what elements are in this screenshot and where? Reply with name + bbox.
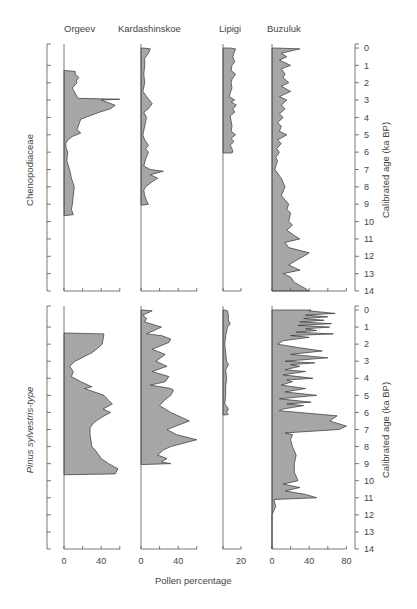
x-tick-label-orgeev: 40 bbox=[96, 556, 106, 566]
panel-label-chenopodiaceae: Chenopodiaceae bbox=[24, 134, 35, 206]
age-tick-label: 5 bbox=[364, 391, 369, 401]
age-tick-label: 2 bbox=[364, 339, 369, 349]
age-tick-label: 12 bbox=[364, 510, 374, 520]
age-tick-label: 8 bbox=[364, 182, 369, 192]
site-label-orgeev: Orgeev bbox=[64, 23, 95, 34]
panel-label-pinus: Pinus sylvestris-type bbox=[24, 387, 35, 474]
site-label-lipigi: Lipigi bbox=[219, 23, 241, 34]
age-tick-label: 4 bbox=[364, 373, 369, 383]
age-tick-label: 2 bbox=[364, 78, 369, 88]
age-tick-label: 12 bbox=[364, 251, 374, 261]
site-label-buzuluk: Buzuluk bbox=[267, 23, 301, 34]
age-tick-label: 9 bbox=[364, 199, 369, 209]
age-tick-label: 1 bbox=[364, 322, 369, 332]
age-tick-label: 3 bbox=[364, 356, 369, 366]
age-tick-label: 3 bbox=[364, 95, 369, 105]
x-tick-label-buzuluk: 80 bbox=[341, 556, 351, 566]
x-tick-label-kardashinskoe: 40 bbox=[173, 556, 183, 566]
age-tick-label: 5 bbox=[364, 130, 369, 140]
age-tick-label: 13 bbox=[364, 527, 374, 537]
age-tick-label: 6 bbox=[364, 408, 369, 418]
age-tick-label: 13 bbox=[364, 269, 374, 279]
age-tick-label: 1 bbox=[364, 61, 369, 71]
tick-labels: 0123456789101112131401234567891011121314… bbox=[61, 43, 374, 566]
chart-graphics bbox=[47, 44, 359, 549]
pollen-curve-orgeev bbox=[64, 71, 120, 216]
pollen-curve-lipigi bbox=[223, 48, 237, 153]
x-axis-label: Pollen percentage bbox=[155, 575, 232, 586]
age-tick-label: 10 bbox=[364, 217, 374, 227]
age-tick-label: 9 bbox=[364, 459, 369, 469]
age-tick-label: 14 bbox=[364, 286, 374, 296]
pollen-diagram: Orgeev Kardashinskoe Lipigi Buzuluk Chen… bbox=[0, 0, 417, 609]
age-tick-label: 7 bbox=[364, 425, 369, 435]
age-tick-label: 7 bbox=[364, 165, 369, 175]
pollen-curve-buzuluk bbox=[272, 310, 346, 549]
age-tick-label: 10 bbox=[364, 476, 374, 486]
age-tick-label: 14 bbox=[364, 544, 374, 554]
pollen-curve-buzuluk bbox=[272, 48, 309, 291]
x-tick-label-kardashinskoe: 0 bbox=[138, 556, 143, 566]
age-tick-label: 6 bbox=[364, 147, 369, 157]
age-tick-label: 11 bbox=[364, 493, 373, 503]
age-tick-label: 0 bbox=[364, 305, 369, 315]
x-tick-label-lipigi: 20 bbox=[236, 556, 246, 566]
x-tick-label-orgeev: 0 bbox=[61, 556, 66, 566]
x-tick-label-buzuluk: 40 bbox=[304, 556, 314, 566]
pollen-curve-kardashinskoe bbox=[141, 310, 197, 464]
age-axis-label-bottom: Calibrated age (ka BP) bbox=[380, 382, 391, 478]
x-tick-label-buzuluk: 0 bbox=[269, 556, 274, 566]
pollen-curve-orgeev bbox=[64, 333, 118, 475]
age-tick-label: 8 bbox=[364, 442, 369, 452]
age-tick-label: 11 bbox=[364, 234, 373, 244]
age-tick-label: 0 bbox=[364, 43, 369, 53]
site-label-kardashinskoe: Kardashinskoe bbox=[118, 23, 181, 34]
pollen-curve-kardashinskoe bbox=[141, 48, 163, 205]
age-tick-label: 4 bbox=[364, 113, 369, 123]
pollen-curve-lipigi bbox=[223, 310, 230, 415]
age-axis-label-top: Calibrated age (ka BP) bbox=[380, 122, 391, 218]
